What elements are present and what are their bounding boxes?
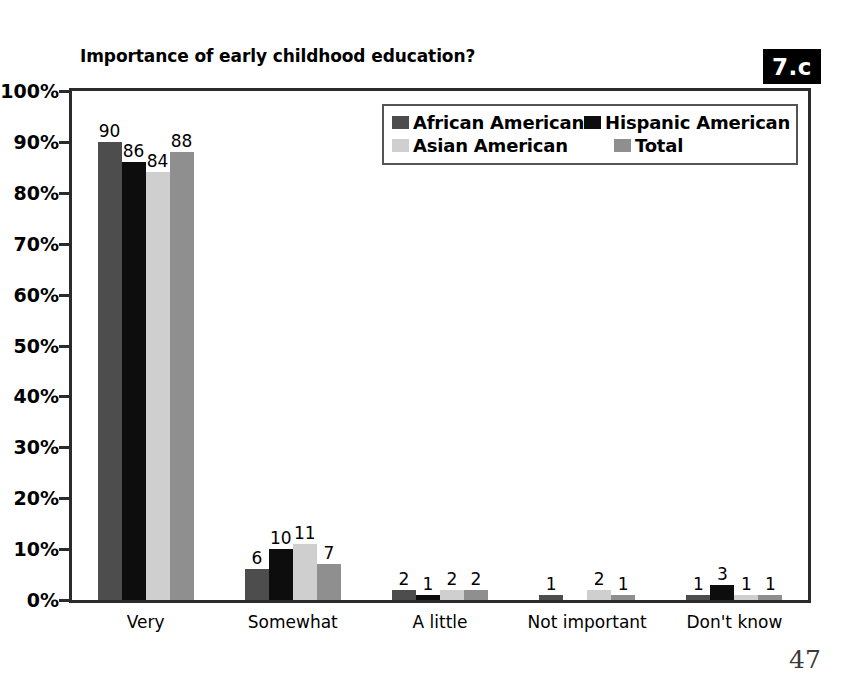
legend-swatch-icon (614, 139, 631, 152)
bar-value-label: 2 (447, 571, 458, 588)
bar-value-label: 10 (270, 530, 292, 547)
y-axis-tick-mark (59, 395, 69, 398)
x-axis-tick-label: A little (413, 612, 468, 632)
bar[interactable]: 2 (464, 590, 488, 600)
legend-entry-total: Total (614, 135, 683, 156)
y-axis-tick-mark (59, 345, 69, 348)
bar[interactable]: 1 (758, 595, 782, 600)
bar-value-label: 1 (765, 576, 776, 593)
bar[interactable]: 86 (122, 162, 146, 600)
y-axis-tick-label: 60% (14, 284, 59, 306)
x-axis-tick-label: Not important (528, 612, 647, 632)
y-axis-tick-label: 100% (0, 80, 59, 102)
legend-row: Asian American Total (392, 135, 788, 156)
bar[interactable]: 1 (416, 595, 440, 600)
bar-value-label: 6 (251, 550, 262, 567)
bar[interactable]: 7 (317, 564, 341, 600)
bar-series-layer: 9086848861011721221211311 (72, 91, 808, 600)
bar[interactable]: 84 (146, 172, 170, 600)
legend-entry-african-american: African American (392, 112, 584, 133)
bar-value-label: 2 (471, 571, 482, 588)
legend-entry-asian-american: Asian American (392, 135, 614, 156)
legend-label: Asian American (413, 135, 568, 156)
page-number: 47 (789, 645, 821, 674)
bar-value-label: 1 (693, 576, 704, 593)
bar-value-label: 11 (294, 525, 316, 542)
legend-swatch-icon (392, 116, 409, 129)
bar[interactable]: 1 (611, 595, 635, 600)
legend-swatch-icon (392, 139, 409, 152)
chart-title: Importance of early childhood education? (80, 46, 475, 66)
bar[interactable]: 1 (686, 595, 710, 600)
x-axis-tick-label: Very (127, 612, 165, 632)
bar-value-label: 1 (423, 576, 434, 593)
bar-group: 121 (539, 91, 635, 600)
y-axis-tick-mark (59, 497, 69, 500)
bar-group: 610117 (245, 91, 341, 600)
x-axis: VerySomewhatA littleNot importantDon't k… (72, 612, 808, 642)
legend-label: African American (413, 112, 584, 133)
legend-swatch-icon (584, 116, 601, 129)
y-axis-tick-mark (59, 446, 69, 449)
bar[interactable]: 10 (269, 549, 293, 600)
legend-label: Total (635, 135, 683, 156)
legend-row: African American Hispanic American (392, 112, 788, 133)
bar-group: 1311 (686, 91, 782, 600)
y-axis-tick-mark (59, 294, 69, 297)
bar[interactable]: 1 (539, 595, 563, 600)
y-axis: 0%10%20%30%40%50%60%70%80%90%100% (0, 0, 59, 683)
bar-value-label: 1 (741, 576, 752, 593)
y-axis-tick-label: 90% (14, 131, 59, 153)
bar-value-label: 88 (171, 133, 193, 150)
y-axis-tick-mark (59, 192, 69, 195)
y-axis-tick-label: 80% (14, 182, 59, 204)
bar-value-label: 86 (123, 143, 145, 160)
bar-value-label: 1 (618, 576, 629, 593)
x-axis-tick-label: Somewhat (248, 612, 338, 632)
bar-value-label: 7 (323, 545, 334, 562)
y-axis-tick-mark (59, 599, 69, 602)
bar[interactable]: 3 (710, 585, 734, 600)
y-axis-tick-label: 70% (14, 233, 59, 255)
bar-value-label: 90 (99, 123, 121, 140)
y-axis-tick-mark (59, 243, 69, 246)
y-axis-tick-label: 0% (27, 589, 59, 611)
y-axis-tick-label: 40% (14, 385, 59, 407)
y-axis-tick-label: 20% (14, 487, 59, 509)
legend-label: Hispanic American (605, 112, 790, 133)
bar[interactable]: 6 (245, 569, 269, 600)
bar-value-label: 84 (147, 153, 169, 170)
bar[interactable]: 2 (392, 590, 416, 600)
bar[interactable]: 2 (440, 590, 464, 600)
y-axis-tick-mark (59, 548, 69, 551)
x-axis-tick-label: Don't know (686, 612, 782, 632)
figure-number-badge: 7.c (763, 49, 821, 84)
bar-group: 90868488 (98, 91, 194, 600)
bar-group: 2122 (392, 91, 488, 600)
y-axis-tick-label: 50% (14, 335, 59, 357)
chart-legend: African American Hispanic American Asian… (382, 104, 798, 165)
bar-value-label: 1 (546, 576, 557, 593)
bar[interactable]: 88 (170, 152, 194, 600)
legend-entry-hispanic-american: Hispanic American (584, 112, 790, 133)
bar[interactable]: 2 (587, 590, 611, 600)
y-axis-tick-label: 10% (14, 538, 59, 560)
bar-value-label: 3 (717, 566, 728, 583)
y-axis-tick-label: 30% (14, 436, 59, 458)
bar[interactable]: 90 (98, 142, 122, 600)
y-axis-tick-mark (59, 141, 69, 144)
bar[interactable]: 1 (734, 595, 758, 600)
y-axis-tick-mark (59, 90, 69, 93)
bar[interactable]: 11 (293, 544, 317, 600)
bar-value-label: 2 (594, 571, 605, 588)
bar-value-label: 2 (399, 571, 410, 588)
